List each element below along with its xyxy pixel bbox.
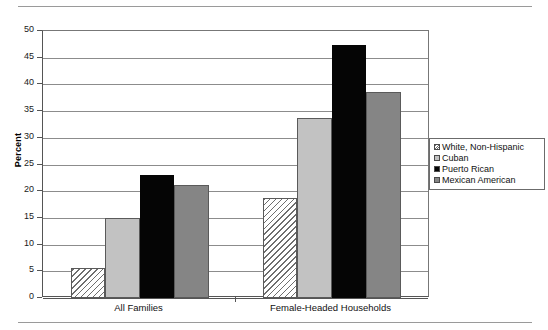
bar <box>140 175 175 298</box>
plot-area <box>42 30 429 297</box>
legend-item-label: White, Non-Hispanic <box>442 143 524 152</box>
x-axis-category-label: All Families <box>39 303 239 313</box>
bar <box>366 92 401 298</box>
bar <box>174 185 209 298</box>
legend-item[interactable]: Cuban <box>434 153 541 164</box>
legend-swatch-icon <box>434 166 440 172</box>
y-axis-tick-label: 0 <box>4 292 34 301</box>
y-axis-tick-label: 20 <box>4 185 34 194</box>
y-axis-tick-label: 40 <box>4 78 34 87</box>
legend-swatch-icon <box>434 155 440 161</box>
x-axis-group-separator-tick <box>235 297 236 302</box>
y-axis-tick <box>37 297 42 298</box>
legend-item-label: Puerto Rican <box>442 165 494 174</box>
legend-item[interactable]: Puerto Rican <box>434 164 541 175</box>
bar <box>332 45 367 298</box>
legend-swatch-icon <box>434 177 440 183</box>
legend-swatch-icon <box>434 144 440 150</box>
bottom-divider-rule <box>18 322 532 323</box>
y-axis-tick-label: 35 <box>4 105 34 114</box>
x-axis-category-label: Female-Headed Households <box>231 303 431 313</box>
bar <box>263 198 298 298</box>
legend-item-label: Cuban <box>442 154 469 163</box>
chart-legend: White, Non-HispanicCubanPuerto RicanMexi… <box>429 138 545 190</box>
legend-item[interactable]: White, Non-Hispanic <box>434 142 541 153</box>
legend-item-label: Mexican American <box>442 176 516 185</box>
y-axis-tick-label: 50 <box>4 25 34 34</box>
bar <box>71 268 106 298</box>
gridline <box>43 84 428 85</box>
chart-figure: 05101520253035404550 Percent All Familie… <box>0 0 548 330</box>
y-axis-title: Percent <box>13 120 23 180</box>
bar <box>297 118 332 298</box>
y-axis-tick-label: 15 <box>4 212 34 221</box>
top-divider-rule <box>18 6 532 7</box>
gridline <box>43 58 428 59</box>
legend-item[interactable]: Mexican American <box>434 175 541 186</box>
gridline <box>43 298 428 299</box>
y-axis-tick-label: 45 <box>4 52 34 61</box>
bar <box>105 218 140 298</box>
y-axis-tick-label: 5 <box>4 265 34 274</box>
y-axis-tick-label: 10 <box>4 239 34 248</box>
